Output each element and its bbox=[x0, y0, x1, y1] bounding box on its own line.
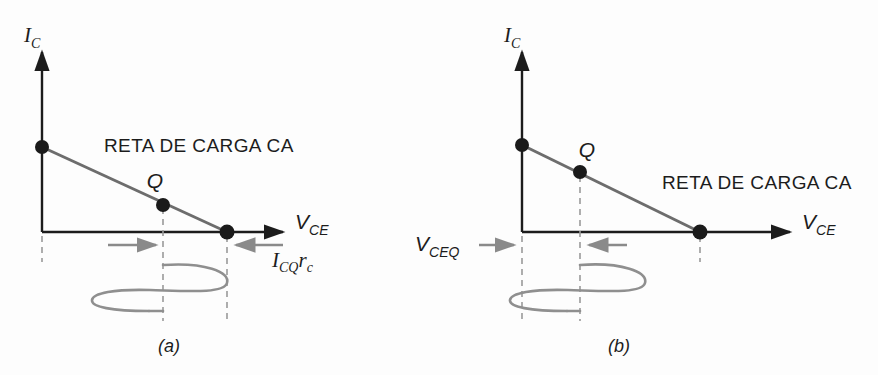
panel-a-saturation-point bbox=[35, 140, 49, 154]
panel-b-swing-label: VCEQ bbox=[415, 232, 459, 260]
panel-b-saturation-point bbox=[515, 138, 529, 152]
panel-a-ac-load-line bbox=[42, 147, 227, 232]
panel-a-swing-label: ICQrc bbox=[271, 248, 314, 275]
panel-b: IC VCE Q RETA DE CARGA CA bbox=[415, 23, 852, 356]
panel-b-q-point bbox=[573, 165, 587, 179]
figure-container: IC VCE Q RETA DE CARGA CA bbox=[0, 0, 878, 375]
panel-b-y-axis-label: IC bbox=[503, 23, 521, 51]
panel-b-cutoff-point bbox=[693, 225, 708, 240]
panel-a-load-line-label: RETA DE CARGA CA bbox=[104, 135, 294, 156]
panel-a: IC VCE Q RETA DE CARGA CA bbox=[23, 23, 329, 356]
panel-a-q-point bbox=[156, 198, 170, 212]
panel-b-x-axis-label: VCE bbox=[802, 210, 836, 238]
panel-a-y-axis-label: IC bbox=[23, 23, 41, 51]
panel-b-load-line-label: RETA DE CARGA CA bbox=[662, 172, 852, 193]
ac-load-line-figure: IC VCE Q RETA DE CARGA CA bbox=[0, 0, 878, 375]
panel-a-x-axis-label: VCE bbox=[295, 210, 329, 238]
panel-a-caption: (a) bbox=[158, 336, 180, 356]
panel-a-q-label: Q bbox=[147, 169, 163, 192]
panel-b-caption: (b) bbox=[608, 336, 630, 356]
panel-b-sine-waveform bbox=[510, 264, 645, 311]
panel-a-cutoff-point bbox=[220, 225, 235, 240]
panel-b-q-label: Q bbox=[579, 138, 595, 161]
panel-a-sine-waveform bbox=[92, 264, 227, 311]
